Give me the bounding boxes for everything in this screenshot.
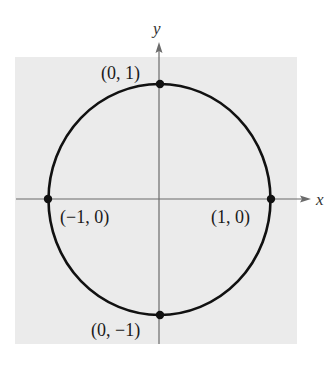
unit-circle-diagram: x y (0, 1) (−1, 0) (1, 0) (0, −1) — [0, 0, 333, 366]
point-label-bottom: (0, −1) — [91, 320, 140, 341]
point-label-right: (1, 0) — [211, 207, 250, 228]
y-axis-label: y — [151, 19, 161, 38]
point-bottom — [156, 311, 164, 319]
point-top — [156, 80, 164, 88]
point-left — [44, 195, 52, 203]
point-label-left: (−1, 0) — [60, 207, 109, 228]
plot-background — [15, 57, 297, 344]
x-axis-label: x — [315, 190, 324, 209]
point-right — [267, 195, 275, 203]
point-label-top: (0, 1) — [101, 63, 140, 84]
